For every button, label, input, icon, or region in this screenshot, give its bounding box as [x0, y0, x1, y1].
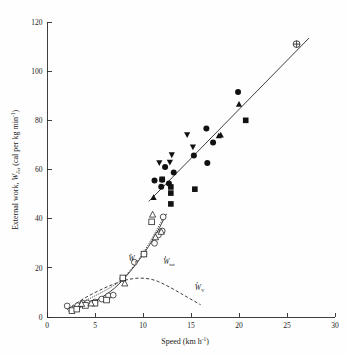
y-tick-label: 60 [35, 165, 43, 174]
curve-label-dot [197, 282, 198, 283]
marker-filled-square [168, 201, 174, 207]
y-tick-label: 120 [31, 18, 43, 27]
w-tot-curve [68, 214, 166, 311]
scatter-plot: 051015202530020406080100120Speed (km h-1… [0, 0, 347, 355]
marker-open-circle [160, 214, 166, 220]
series-top-crossed-circle [293, 41, 300, 48]
curve-label-dot [165, 256, 166, 257]
marker-open-circle [152, 240, 158, 246]
marker-open-triangle-up [150, 211, 156, 217]
marker-filled-square [168, 184, 174, 190]
marker-filled-circle [204, 160, 210, 166]
x-tick-label: 5 [93, 321, 97, 330]
marker-open-square [149, 219, 155, 225]
regression-line [149, 38, 309, 201]
text-labels: 051015202530020406080100120Speed (km h-1… [10, 18, 339, 346]
y-tick-label: 0 [39, 313, 43, 322]
series-running-filled-circle [152, 89, 242, 190]
marker-open-circle [110, 292, 116, 298]
marker-filled-circle [210, 139, 216, 145]
curve-label-W-tot-solid: Wtot [163, 256, 175, 267]
marker-filled-square [168, 190, 174, 196]
marker-open-square [141, 251, 147, 257]
series-running-filled-square [159, 118, 248, 207]
curve-label-dot [130, 254, 131, 255]
x-tick-label: 30 [331, 321, 339, 330]
marker-crossed-circle [293, 41, 300, 48]
series-running-filled-triangle-up [150, 101, 242, 200]
figure-container: 051015202530020406080100120Speed (km h-1… [0, 0, 347, 355]
marker-filled-circle [152, 178, 158, 184]
x-tick-label: 25 [283, 321, 291, 330]
x-axis-title: Speed (km h-1) [161, 336, 209, 346]
x-tick-label: 20 [235, 321, 243, 330]
marker-filled-circle [158, 184, 164, 190]
curve-label-text: Wtot [163, 257, 175, 267]
marker-filled-square [192, 186, 198, 192]
w-dot-accent [16, 171, 17, 172]
y-tick-label: 80 [35, 116, 43, 125]
curve-label-W-V-dashed: WV [195, 282, 205, 293]
marker-filled-triangle-down [169, 152, 175, 158]
marker-filled-circle [203, 125, 209, 131]
marker-filled-square [159, 177, 165, 183]
trend-curves [67, 38, 309, 311]
y-axis-title-text: External work, Wext (cal per kg min-1) [10, 110, 21, 230]
marker-filled-circle [235, 89, 241, 95]
axes [47, 22, 335, 317]
marker-filled-circle [191, 152, 197, 158]
marker-filled-circle [162, 164, 168, 170]
series-walking-open-triangle [78, 211, 164, 306]
marker-filled-triangle-up [236, 101, 242, 107]
curve-label-W-F-dotted: WF [129, 254, 138, 265]
x-tick-label: 0 [45, 321, 49, 330]
data-points [64, 41, 300, 314]
marker-filled-triangle-down [190, 144, 196, 150]
curve-label-text: WV [195, 283, 205, 293]
marker-open-square [104, 297, 110, 303]
y-axis-title: External work, Wext (cal per kg min-1) [10, 110, 21, 230]
marker-filled-triangle-down [184, 132, 190, 138]
marker-filled-triangle-down [156, 160, 162, 166]
series-walking-open-circle [64, 214, 166, 309]
series-running-filled-triangle-down [156, 132, 196, 166]
marker-filled-circle [171, 169, 177, 175]
curve-label-text: WF [129, 254, 138, 264]
x-tick-label: 15 [187, 321, 195, 330]
marker-open-square [74, 306, 80, 312]
x-tick-label: 10 [139, 321, 147, 330]
marker-filled-square [243, 118, 249, 124]
y-tick-label: 100 [31, 67, 43, 76]
w-f-curve [68, 215, 165, 309]
marker-filled-triangle-up [150, 194, 156, 200]
y-tick-label: 20 [35, 264, 43, 273]
marker-filled-triangle-down [167, 160, 173, 166]
y-tick-label: 40 [35, 214, 43, 223]
